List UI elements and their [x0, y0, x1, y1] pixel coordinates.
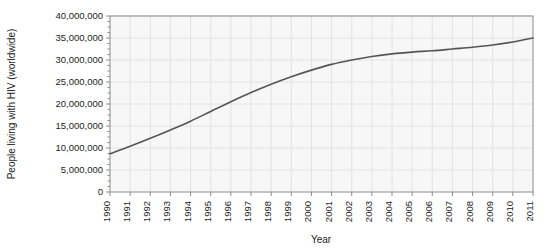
x-tick-label: 1996 — [222, 201, 233, 222]
y-tick-label: 30,000,000 — [55, 54, 103, 65]
x-tick-label: 2002 — [343, 201, 354, 222]
x-tick-label: 2009 — [484, 201, 495, 222]
y-axis-title: People living with HIV (worldwide) — [6, 29, 17, 180]
y-tick-label: 15,000,000 — [55, 120, 103, 131]
x-tick-label: 1998 — [262, 201, 273, 222]
y-tick-label: 40,000,000 — [55, 10, 103, 21]
x-tick-label: 2006 — [423, 201, 434, 222]
y-tick-label: 25,000,000 — [55, 76, 103, 87]
y-tick-label: 35,000,000 — [55, 32, 103, 43]
x-tick-label: 2004 — [383, 201, 394, 222]
x-tick-label: 2001 — [323, 201, 334, 222]
x-tick-label: 1994 — [182, 201, 193, 222]
x-tick-label: 2005 — [403, 201, 414, 222]
y-axis-tick-labels: 40,000,00035,000,00030,000,00025,000,000… — [55, 10, 103, 197]
x-tick-label: 2011 — [524, 201, 535, 221]
x-tick-label: 1997 — [242, 201, 253, 222]
chart-canvas: 40,000,00035,000,00030,000,00025,000,000… — [0, 0, 553, 251]
x-tick-label: 2000 — [302, 201, 313, 222]
x-tick-label: 1995 — [202, 201, 213, 222]
x-axis-title: Year — [311, 234, 332, 245]
x-tick-label: 1999 — [282, 201, 293, 222]
y-tick-label: 20,000,000 — [55, 98, 103, 109]
hiv-line-chart: 40,000,00035,000,00030,000,00025,000,000… — [0, 0, 553, 251]
y-tick-label: 10,000,000 — [55, 142, 103, 153]
x-tick-label: 1992 — [141, 201, 152, 222]
x-tick-label: 1990 — [101, 201, 112, 222]
x-tick-label: 2010 — [504, 201, 515, 222]
x-tick-label: 2003 — [363, 201, 374, 222]
y-tick-label: 5,000,000 — [61, 164, 103, 175]
x-tick-label: 2007 — [443, 201, 454, 222]
x-tick-label: 1993 — [161, 201, 172, 222]
y-tick-label: 0 — [98, 186, 103, 197]
x-tick-label: 2008 — [464, 201, 475, 222]
x-tick-label: 1991 — [121, 201, 132, 222]
